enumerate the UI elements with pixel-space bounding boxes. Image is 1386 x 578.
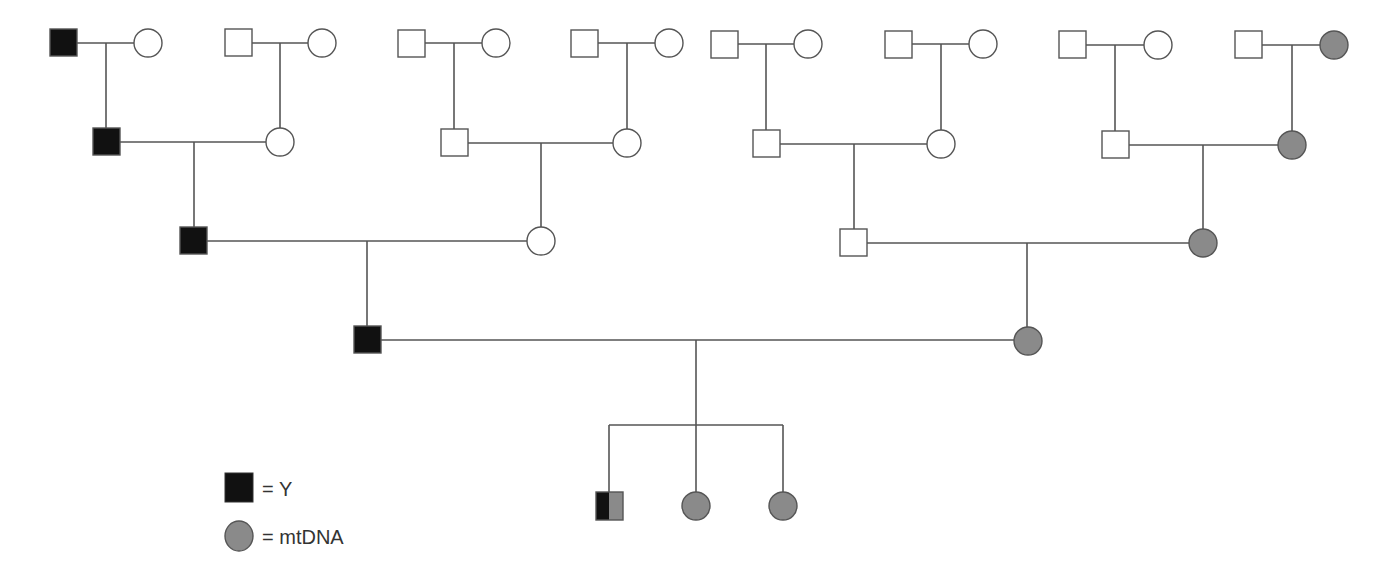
female-circle-icon: [1189, 229, 1217, 257]
legend: = Y = mtDNA: [225, 473, 344, 551]
male-square-icon: [885, 31, 912, 58]
legend-mtdna-label: = mtDNA: [262, 526, 344, 548]
female-circle-icon: [1014, 327, 1042, 355]
male-square-icon: [354, 326, 381, 353]
female-circle-icon: [969, 30, 997, 58]
male-square-icon: [398, 30, 425, 57]
female-circle-icon: [927, 130, 955, 158]
female-circle-icon: [655, 29, 683, 57]
legend-y-label: = Y: [262, 478, 292, 500]
legend-mtdna-circle-icon: [225, 521, 253, 551]
female-circle-icon: [527, 227, 555, 255]
male-square-icon: [1235, 31, 1262, 58]
male-square-icon: [1102, 131, 1129, 158]
female-circle-icon: [482, 29, 510, 57]
male-square-icon: [50, 29, 77, 56]
male-square-icon: [1059, 31, 1086, 58]
female-circle-icon: [682, 492, 710, 520]
pedigree-diagram: = Y = mtDNA: [0, 0, 1386, 578]
legend-y-square-icon: [225, 473, 253, 502]
female-circle-icon: [613, 129, 641, 157]
female-circle-icon: [1278, 131, 1306, 159]
male-square-icon: [753, 130, 780, 157]
male-square-icon: [225, 29, 252, 56]
relationship-lines: [77, 43, 1320, 492]
male-square-icon: [596, 492, 623, 520]
male-square-icon: [441, 129, 468, 156]
female-circle-icon: [266, 128, 294, 156]
male-square-icon: [840, 229, 867, 256]
female-circle-icon: [1320, 31, 1348, 59]
male-square-icon: [571, 30, 598, 57]
male-square-icon: [93, 128, 120, 155]
individuals: [50, 29, 1348, 520]
female-circle-icon: [134, 29, 162, 57]
female-circle-icon: [794, 30, 822, 58]
female-circle-icon: [769, 492, 797, 520]
female-circle-icon: [1144, 31, 1172, 59]
male-square-icon: [180, 227, 207, 254]
male-square-icon: [711, 31, 738, 58]
female-circle-icon: [308, 29, 336, 57]
